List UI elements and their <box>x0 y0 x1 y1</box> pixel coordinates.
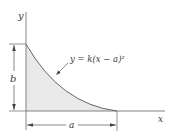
arrow-left-icon <box>27 123 33 127</box>
arrow-down-icon <box>12 104 16 110</box>
x-axis-label: x <box>158 114 163 124</box>
arrow-right-icon <box>110 123 116 127</box>
parabolic-area-diagram: y x b a y = k(x − a)² <box>0 0 172 139</box>
y-axis-label: y <box>17 10 24 21</box>
b-dimension-label: b <box>10 73 16 84</box>
a-dimension-label: a <box>69 120 74 130</box>
curve-equation: y = k(x − a)² <box>69 54 125 64</box>
arrow-up-icon <box>12 45 16 51</box>
